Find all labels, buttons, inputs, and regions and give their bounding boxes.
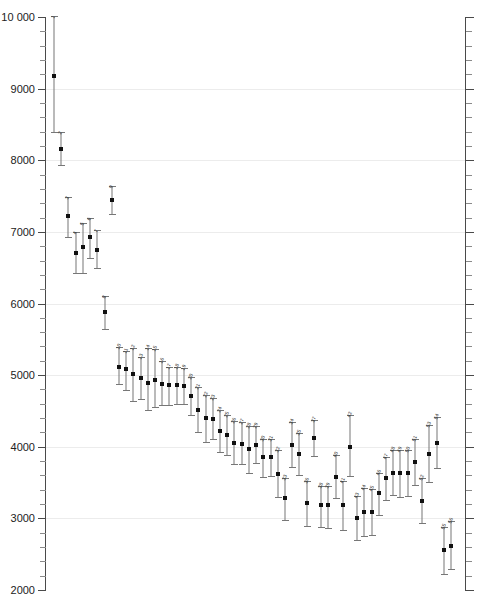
data-marker: [211, 417, 215, 421]
error-bar-cap-lower: [145, 410, 152, 411]
y-tick-minor: [466, 561, 472, 562]
y-tick-minor: [466, 475, 472, 476]
error-bar-cap-lower: [181, 404, 188, 405]
error-bar-cap-lower: [174, 404, 181, 405]
y-tick-label: 2000: [0, 584, 35, 596]
error-bar-cap-lower: [260, 477, 267, 478]
data-marker: [182, 384, 186, 388]
y-tick-minor: [466, 289, 472, 290]
data-point-label: 51: [410, 434, 418, 441]
data-marker: [326, 503, 330, 507]
data-marker: [406, 471, 410, 475]
data-point-label: 15: [150, 344, 158, 351]
y-tick-minor: [466, 361, 472, 362]
data-marker: [167, 383, 171, 387]
data-point-label: 46: [374, 468, 382, 475]
y-tick-minor: [466, 60, 472, 61]
y-tick-major: [466, 518, 474, 519]
error-bar-cap-lower: [426, 482, 433, 483]
y-tick-major: [38, 160, 46, 161]
y-tick-major: [466, 304, 474, 305]
data-point-label: 44: [360, 484, 368, 491]
y-tick-major: [38, 518, 46, 519]
error-bar-cap-lower: [138, 399, 145, 400]
data-marker: [110, 198, 114, 202]
data-marker: [398, 471, 402, 475]
error-bar-cap-lower: [224, 455, 231, 456]
error-bar-cap-lower: [412, 485, 419, 486]
y-tick-minor: [466, 103, 472, 104]
error-bar-cap-lower: [188, 415, 195, 416]
data-marker: [175, 383, 179, 387]
data-point-label: 24: [215, 405, 223, 412]
error-bar-cap-lower: [203, 442, 210, 443]
y-tick-label: 9000: [0, 83, 35, 95]
data-point-label: 42: [345, 411, 353, 418]
error-bar-cap-lower: [289, 467, 296, 468]
error-bar-cap-lower: [58, 165, 65, 166]
data-marker: [290, 443, 294, 447]
data-point-label: 52: [418, 474, 426, 481]
error-bar-cap-lower: [275, 497, 282, 498]
data-marker: [232, 441, 236, 445]
data-marker: [146, 381, 150, 385]
data-point-label: 49: [396, 445, 404, 452]
data-point-label: 41: [338, 477, 346, 484]
error-bar-cap-lower: [73, 273, 80, 274]
data-point-label: 16: [158, 356, 166, 363]
y-tick-minor: [466, 275, 472, 276]
data-marker: [247, 447, 251, 451]
data-point-label: 26: [230, 417, 238, 424]
data-point-label: 47: [381, 452, 389, 459]
error-bar-cap-lower: [354, 540, 361, 541]
data-marker: [103, 310, 107, 314]
error-bar-cap-lower: [102, 329, 109, 330]
error-bar-cap-lower: [65, 237, 72, 238]
data-marker: [160, 382, 164, 386]
data-marker: [139, 376, 143, 380]
data-marker: [355, 516, 359, 520]
data-point-label: 22: [201, 391, 209, 398]
y-tick-minor: [466, 547, 472, 548]
data-point-label: 23: [208, 394, 216, 401]
y-tick-minor: [466, 261, 472, 262]
data-marker: [131, 372, 135, 376]
data-point-label: 12: [129, 344, 137, 351]
y-tick-label: 7000: [0, 226, 35, 238]
data-point-label: 53: [425, 420, 433, 427]
data-point-label: 19: [179, 364, 187, 371]
error-bar-cap-lower: [87, 258, 94, 259]
data-marker: [305, 501, 309, 505]
data-marker: [196, 408, 200, 412]
data-point-label: 29: [252, 422, 260, 429]
y-tick-minor: [466, 346, 472, 347]
data-marker: [283, 496, 287, 500]
data-marker: [312, 436, 316, 440]
y-tick-major: [38, 447, 46, 448]
data-point-label: 35: [295, 429, 303, 436]
y-tick-minor: [466, 318, 472, 319]
y-tick-minor: [466, 175, 472, 176]
error-bar-cap-lower: [340, 530, 347, 531]
y-tick-label: 3000: [0, 512, 35, 524]
error-bar-cap-lower: [376, 515, 383, 516]
y-tick-minor: [466, 389, 472, 390]
data-marker: [334, 475, 338, 479]
data-point-label: 33: [280, 473, 288, 480]
data-marker: [413, 460, 417, 464]
data-marker: [52, 74, 56, 78]
y-tick-label: 4000: [0, 441, 35, 453]
data-marker: [341, 503, 345, 507]
data-point-label: 37: [309, 415, 317, 422]
data-marker: [124, 367, 128, 371]
data-point-label: 32: [273, 445, 281, 452]
error-bar-cap-lower: [448, 569, 455, 570]
error-bar-cap-lower: [152, 407, 159, 408]
error-bar-cap-lower: [246, 473, 253, 474]
data-point-label: 21: [194, 383, 202, 390]
error-bar-cap-lower: [419, 523, 426, 524]
error-bar-cap-lower: [318, 527, 325, 528]
data-point-label: 13: [136, 353, 144, 360]
data-marker: [319, 503, 323, 507]
y-tick-minor: [466, 332, 472, 333]
